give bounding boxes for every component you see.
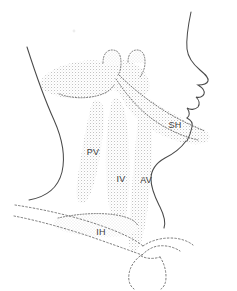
anatomical-figure: SH PV IV AV IH [0, 0, 237, 291]
label-IV: IV [117, 174, 126, 184]
label-IH: IH [96, 227, 105, 237]
label-AV: AV [140, 175, 152, 185]
scan-artifact-speck [73, 30, 76, 33]
label-SH: SH [169, 120, 182, 130]
label-PV: PV [87, 147, 99, 157]
neck-lymph-node-diagram: SH PV IV AV IH [0, 0, 237, 291]
region-IV [106, 98, 129, 224]
